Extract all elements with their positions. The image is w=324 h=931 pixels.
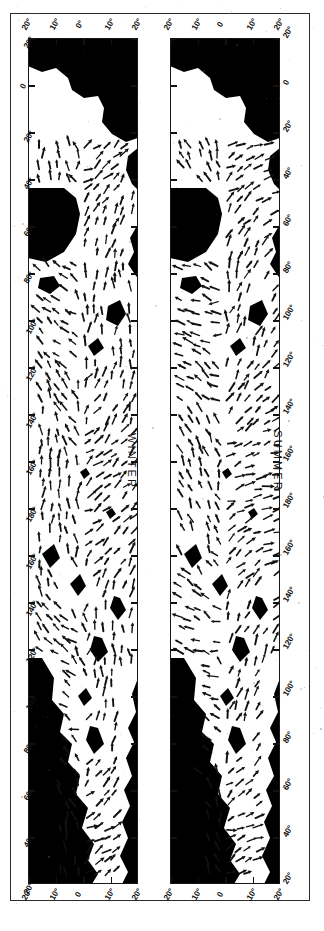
scan-speckle — [176, 187, 177, 188]
scan-speckle — [87, 166, 88, 167]
longitude-tick — [171, 602, 177, 603]
panel-title-winter: WINTER — [126, 433, 138, 489]
scan-speckle — [57, 461, 59, 463]
scan-speckle — [110, 373, 112, 375]
longitude-tick — [131, 85, 137, 86]
scan-speckle — [152, 427, 154, 429]
latitude-tick — [253, 877, 254, 883]
latitude-tick — [56, 39, 57, 45]
scan-speckle — [298, 602, 300, 604]
longitude-tick — [273, 414, 279, 415]
scan-speckle — [173, 715, 174, 716]
scan-speckle — [80, 420, 81, 421]
longitude-tick — [171, 555, 177, 556]
scan-speckle — [190, 127, 191, 128]
scan-speckle — [25, 193, 26, 194]
latitude-tick — [56, 877, 57, 883]
longitude-tick — [273, 273, 279, 274]
scan-speckle — [253, 682, 255, 684]
scan-speckle — [43, 716, 44, 717]
longitude-tick — [273, 508, 279, 509]
map-canvas-summer — [170, 38, 280, 884]
scan-speckle — [107, 385, 108, 386]
longitude-tick — [29, 85, 35, 86]
scan-speckle — [173, 142, 175, 144]
longitude-tick — [131, 38, 137, 39]
scan-speckle — [7, 395, 8, 396]
longitude-tick — [273, 320, 279, 321]
scan-speckle — [227, 625, 228, 626]
scan-speckle — [301, 165, 302, 166]
scan-speckle — [220, 6, 221, 7]
scan-speckle — [213, 329, 214, 330]
longitude-tick — [273, 602, 279, 603]
map-canvas-winter — [28, 38, 138, 884]
scan-speckle — [83, 53, 84, 54]
scan-speckle — [14, 711, 15, 712]
longitude-tick — [171, 38, 177, 39]
longitude-tick — [171, 414, 177, 415]
map-svg-winter — [28, 38, 138, 884]
scan-speckle — [246, 337, 248, 339]
scan-speckle — [322, 345, 323, 346]
longitude-tick — [131, 743, 137, 744]
longitude-tick — [171, 367, 177, 368]
longitude-tick — [171, 85, 177, 86]
scan-speckle — [70, 131, 71, 132]
scan-speckle — [320, 728, 322, 730]
scan-speckle — [219, 118, 221, 120]
longitude-tick — [273, 649, 279, 650]
longitude-tick — [273, 179, 279, 180]
plot-area-summer — [170, 38, 280, 884]
scan-speckle — [276, 660, 277, 661]
scan-speckle — [48, 769, 50, 771]
longitude-tick — [131, 602, 137, 603]
scan-speckle — [283, 462, 284, 463]
longitude-tick — [273, 743, 279, 744]
scan-speckle — [187, 378, 188, 379]
longitude-tick — [171, 696, 177, 697]
scan-speckle — [17, 6, 18, 7]
scan-speckle — [21, 796, 23, 798]
scan-speckle — [155, 305, 157, 307]
longitude-tick — [273, 85, 279, 86]
scan-speckle — [313, 28, 314, 29]
scan-speckle — [125, 19, 126, 20]
scan-speckle — [97, 687, 98, 688]
longitude-tick — [171, 649, 177, 650]
scan-speckle — [39, 899, 41, 901]
latitude-tick — [225, 39, 226, 45]
scan-speckle — [48, 856, 50, 858]
scan-speckle — [266, 31, 267, 32]
longitude-tick — [273, 555, 279, 556]
longitude-tick — [273, 132, 279, 133]
longitude-tick — [171, 320, 177, 321]
scan-speckle — [270, 429, 271, 430]
scan-speckle — [37, 706, 38, 707]
panel-title-summer: SUMMER — [272, 430, 284, 492]
scan-speckle — [236, 882, 237, 883]
longitude-tick — [131, 414, 137, 415]
longitude-tick — [131, 132, 137, 133]
scan-speckle — [301, 320, 302, 321]
scan-speckle — [100, 349, 101, 350]
longitude-tick — [131, 226, 137, 227]
scan-speckle — [14, 593, 15, 594]
scan-speckle — [7, 391, 8, 392]
scan-speckle — [22, 223, 24, 225]
longitude-tick — [131, 790, 137, 791]
scan-speckle — [178, 6, 179, 7]
longitude-tick — [171, 837, 177, 838]
longitude-tick — [171, 790, 177, 791]
scan-speckle — [306, 650, 307, 651]
latitude-tick — [111, 877, 112, 883]
scan-speckle — [199, 473, 201, 475]
scan-speckle — [78, 463, 80, 465]
latitude-tick — [253, 39, 254, 45]
longitude-tick — [131, 367, 137, 368]
longitude-tick — [273, 837, 279, 838]
longitude-tick — [131, 555, 137, 556]
latitude-tick — [198, 877, 199, 883]
scan-speckle — [277, 446, 279, 448]
longitude-tick — [171, 179, 177, 180]
